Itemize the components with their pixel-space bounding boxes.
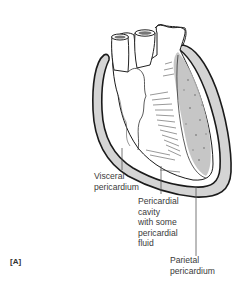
- vessel-left: [112, 37, 129, 72]
- panel-label: [A]: [10, 257, 21, 266]
- heart-illustration: [0, 0, 250, 297]
- label-parietal-pericardium: Parietal pericardium: [170, 255, 215, 276]
- label-visceral-pericardium: Visceral pericardium: [94, 171, 139, 192]
- pericardium-diagram: Visceral pericardium Pericardial cavity …: [0, 0, 250, 297]
- label-pericardial-cavity: Pericardial cavity with some pericardial…: [138, 196, 179, 249]
